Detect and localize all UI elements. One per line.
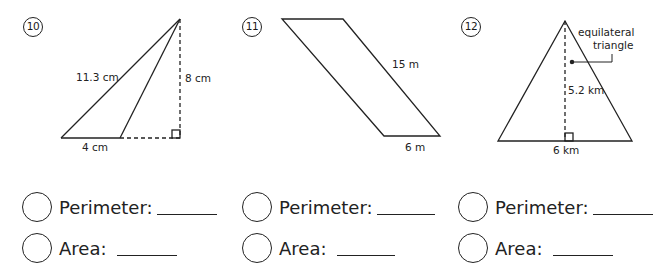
label-base: 6 km	[553, 144, 579, 156]
label-side: 15 m	[392, 58, 419, 70]
problem-number-10: 10	[23, 17, 43, 37]
answer-blank[interactable]	[593, 214, 653, 215]
area-answer-11: Area:	[242, 233, 395, 263]
area-label: Area:	[59, 238, 107, 259]
label-slant-side: 11.3 cm	[76, 71, 119, 83]
answer-blank[interactable]	[377, 214, 435, 215]
problem-number-12: 12	[461, 17, 481, 37]
answer-bubble[interactable]	[458, 192, 488, 222]
answer-bubble[interactable]	[22, 233, 52, 263]
area-answer-10: Area:	[22, 233, 177, 263]
label-base: 6 m	[405, 141, 425, 153]
answer-blank[interactable]	[337, 255, 395, 256]
label-height: 5.2 km	[568, 84, 604, 96]
area-label: Area:	[495, 238, 543, 259]
area-label: Area:	[279, 238, 327, 259]
callout-equilateral: equilateral	[578, 26, 634, 38]
answer-blank[interactable]	[553, 255, 613, 256]
area-answer-12: Area:	[458, 233, 613, 263]
answer-bubble[interactable]	[22, 192, 52, 222]
answer-bubble[interactable]	[242, 192, 272, 222]
perimeter-label: Perimeter:	[59, 197, 153, 218]
answer-blank[interactable]	[157, 214, 217, 215]
callout-triangle: triangle	[593, 39, 633, 51]
perimeter-answer-11: Perimeter:	[242, 192, 435, 222]
perimeter-answer-12: Perimeter:	[458, 192, 653, 222]
answer-bubble[interactable]	[458, 233, 488, 263]
label-height: 8 cm	[185, 72, 211, 84]
perimeter-label: Perimeter:	[279, 197, 373, 218]
label-base: 4 cm	[82, 141, 108, 153]
perimeter-answer-10: Perimeter:	[22, 192, 217, 222]
answer-blank[interactable]	[117, 255, 177, 256]
figure-parallelogram	[282, 19, 440, 136]
answer-bubble[interactable]	[242, 233, 272, 263]
problem-number-11: 11	[242, 17, 262, 37]
perimeter-label: Perimeter:	[495, 197, 589, 218]
